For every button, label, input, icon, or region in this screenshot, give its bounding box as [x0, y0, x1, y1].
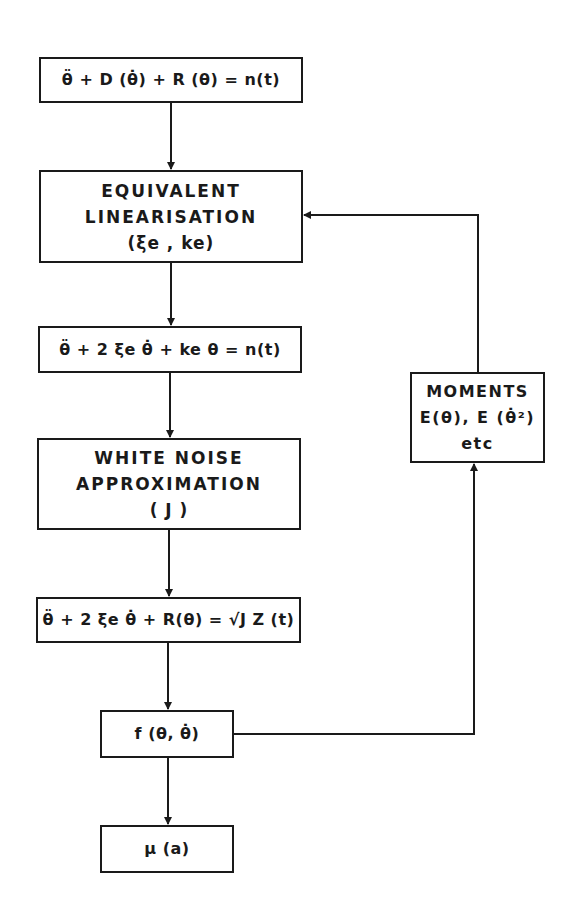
result-box: μ (a)	[100, 825, 234, 873]
equivalent-linearisation-line-2: LINEARISATION	[85, 204, 257, 230]
probability-density-text: f (θ, θ̇)	[135, 719, 200, 749]
white-noise-line-1: WHITE NOISE	[94, 445, 243, 471]
equation-of-motion-text: θ̈ + D (θ̇) + R (θ) = n(t)	[62, 65, 280, 95]
white-noise-line-2: APPROXIMATION	[76, 471, 262, 497]
white-noise-approximation-box: WHITE NOISE APPROXIMATION ( J )	[37, 438, 301, 530]
linearised-equation-text: θ̈ + 2 ξe θ̇ + ke θ = n(t)	[59, 335, 281, 365]
approximated-equation-text: θ̈ + 2 ξe θ̇ + R(θ) = √J Z (t)	[43, 605, 295, 635]
probability-density-box: f (θ, θ̇)	[100, 710, 234, 758]
result-text: μ (a)	[144, 834, 189, 864]
equivalent-linearisation-box: EQUIVALENT LINEARISATION (ξe , ke)	[39, 170, 303, 263]
moments-line-1: MOMENTS	[426, 379, 529, 405]
equivalent-linearisation-line-3: (ξe , ke)	[128, 230, 215, 256]
arrow-moments-to-linearisation	[304, 215, 478, 372]
moments-line-2: E(θ), E (θ̇²)	[420, 405, 535, 431]
flowchart-diagram: θ̈ + D (θ̇) + R (θ) = n(t) EQUIVALENT LI…	[0, 0, 576, 917]
white-noise-line-3: ( J )	[150, 497, 189, 523]
approximated-equation-box: θ̈ + 2 ξe θ̇ + R(θ) = √J Z (t)	[36, 597, 301, 643]
equivalent-linearisation-line-1: EQUIVALENT	[101, 178, 241, 204]
moments-line-3: etc	[461, 431, 493, 457]
moments-box: MOMENTS E(θ), E (θ̇²) etc	[410, 372, 545, 463]
equation-of-motion-box: θ̈ + D (θ̇) + R (θ) = n(t)	[39, 57, 303, 103]
linearised-equation-box: θ̈ + 2 ξe θ̇ + ke θ = n(t)	[38, 326, 302, 373]
